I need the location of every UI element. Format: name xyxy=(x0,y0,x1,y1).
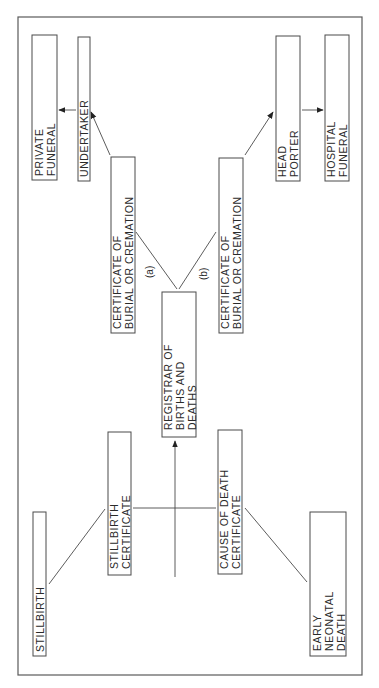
svg-text:BURIAL OR CREMATION: BURIAL OR CREMATION xyxy=(231,196,243,329)
svg-text:STILLBIRTH: STILLBIRTH xyxy=(34,587,46,652)
svg-text:REGISTRAR OF: REGISTRAR OF xyxy=(162,344,174,430)
svg-text:NEONATAL: NEONATAL xyxy=(323,591,335,651)
flow-diagram: PRIVATE FUNERAL UNDERTAKER CERTIFICATE O… xyxy=(0,0,379,688)
svg-text:(a): (a) xyxy=(144,266,155,278)
svg-text:FUNERAL: FUNERAL xyxy=(337,124,349,177)
node-certificate-a: CERTIFICATE OF BURIAL OR CREMATION xyxy=(111,157,135,333)
svg-text:UNDERTAKER: UNDERTAKER xyxy=(78,100,90,177)
svg-text:CAUSE OF DEATH: CAUSE OF DEATH xyxy=(218,469,230,569)
node-stillbirth-certificate: STILLBIRTH CERTIFICATE xyxy=(108,432,132,575)
svg-text:CERTIFICATE: CERTIFICATE xyxy=(230,495,242,569)
svg-text:EARLY: EARLY xyxy=(311,614,323,651)
node-certificate-b: CERTIFICATE OF BURIAL OR CREMATION xyxy=(219,158,243,333)
branch-label-b: (b) xyxy=(198,268,209,280)
svg-text:(b): (b) xyxy=(198,268,209,280)
svg-text:BIRTHS AND: BIRTHS AND xyxy=(174,361,186,430)
edge-stillbirth-to-stillbirth-cert xyxy=(49,509,105,584)
svg-text:STILLBIRTH: STILLBIRTH xyxy=(108,504,120,569)
node-registrar: REGISTRAR OF BIRTHS AND DEATHS xyxy=(162,292,198,437)
svg-text:CERTIFICATE OF: CERTIFICATE OF xyxy=(111,235,123,329)
node-early-neonatal-death: EARLY NEONATAL DEATH xyxy=(310,512,347,656)
node-undertaker: UNDERTAKER xyxy=(78,37,90,181)
node-cause-of-death-certificate: CAUSE OF DEATH CERTIFICATE xyxy=(218,430,242,574)
svg-text:CERTIFICATE OF: CERTIFICATE OF xyxy=(219,235,231,329)
edge-neonatal-to-cause-of-death xyxy=(245,508,307,582)
edge-registrar-to-cert-a xyxy=(136,232,177,289)
node-head-porter: HEAD PORTER xyxy=(276,36,300,181)
node-hospital-funeral: HOSPITAL FUNERAL xyxy=(325,35,349,181)
svg-text:CERTIFICATE: CERTIFICATE xyxy=(120,495,132,569)
svg-text:HEAD: HEAD xyxy=(276,145,288,177)
edge-cert-b-to-head-porter xyxy=(245,112,273,155)
node-stillbirth: STILLBIRTH xyxy=(33,512,46,656)
branch-label-a: (a) xyxy=(144,266,155,278)
svg-text:PORTER: PORTER xyxy=(288,130,300,177)
svg-text:HOSPITAL: HOSPITAL xyxy=(325,121,337,177)
svg-text:FUNERAL: FUNERAL xyxy=(45,123,57,176)
edge-cert-a-to-undertaker xyxy=(91,112,110,155)
svg-text:DEATHS: DEATHS xyxy=(186,385,198,430)
svg-text:BURIAL OR CREMATION: BURIAL OR CREMATION xyxy=(123,196,135,329)
svg-text:PRIVATE: PRIVATE xyxy=(33,128,45,176)
node-private-funeral: PRIVATE FUNERAL xyxy=(32,35,57,180)
svg-text:DEATH: DEATH xyxy=(335,613,347,651)
